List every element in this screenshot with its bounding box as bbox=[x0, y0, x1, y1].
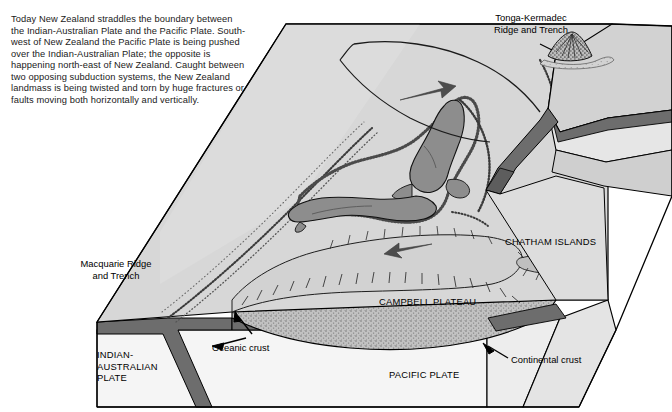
label-indian-australian-plate: INDIAN- AUSTRALIAN PLATE bbox=[97, 349, 189, 384]
label-pacific-plate: PACIFIC PLATE bbox=[389, 369, 485, 381]
label-campbell-plateau: CAMPBELL PLATEAU bbox=[379, 296, 501, 308]
label-oceanic-crust: Oceanic crust bbox=[212, 342, 308, 354]
label-macquarie-ridge: Macquarie Ridge and Trench bbox=[50, 258, 182, 281]
label-continental-crust: Continental crust bbox=[511, 354, 619, 366]
label-chatham-islands: CHATHAM ISLANDS bbox=[505, 236, 629, 248]
intro-paragraph: Today New Zealand straddles the boundary… bbox=[11, 14, 246, 106]
figure-canvas: Today New Zealand straddles the boundary… bbox=[0, 0, 672, 412]
label-tonga-kermadec: Tonga-Kermadec Ridge and Trench bbox=[466, 12, 596, 35]
